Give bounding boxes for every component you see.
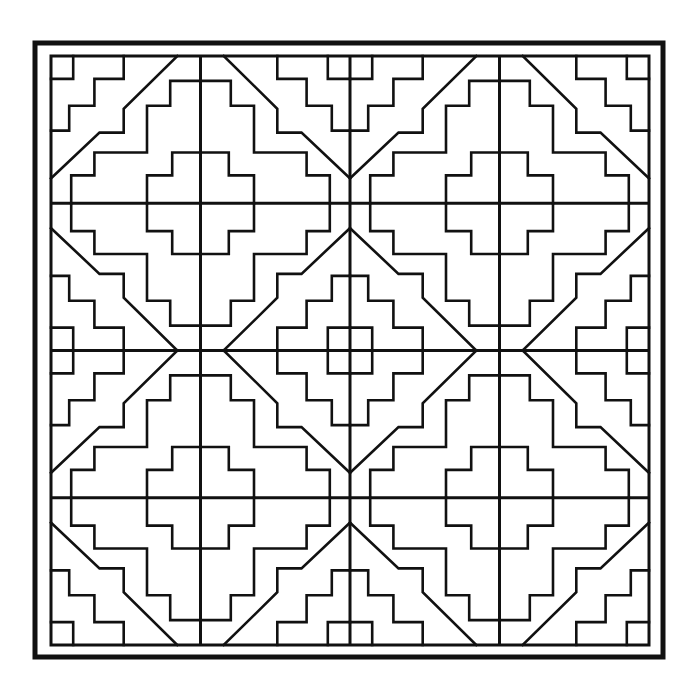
corner-stair (277, 570, 350, 645)
pattern-cell (201, 56, 351, 203)
inner-step-cross (500, 447, 554, 498)
inner-step-cross (201, 498, 255, 549)
corner-stair (350, 351, 423, 426)
inner-step-cross (446, 153, 500, 204)
corner-square (627, 328, 649, 351)
corner-square (350, 622, 372, 645)
inner-step-cross (500, 498, 554, 549)
pattern-cell (51, 203, 201, 350)
inner-step-cross (201, 153, 255, 204)
corner-square (627, 622, 649, 645)
corner-stair (350, 570, 423, 645)
corner-square (350, 351, 372, 374)
corner-square (328, 56, 350, 79)
corner-square (328, 351, 350, 374)
inner-step-cross (446, 203, 500, 254)
inner-step-cross (147, 447, 201, 498)
pattern-cell (51, 351, 201, 498)
inner-step-cross (147, 153, 201, 204)
corner-square (627, 56, 649, 79)
tile-grid-lines (51, 56, 649, 645)
corner-square (350, 56, 372, 79)
corner-square (328, 622, 350, 645)
pattern-cell (201, 498, 351, 645)
corner-stair (51, 351, 124, 426)
corner-stair (277, 276, 350, 351)
corner-stair (576, 56, 649, 131)
corner-stair (277, 351, 350, 426)
inner-step-cross (500, 203, 554, 254)
pattern-cell (500, 56, 650, 203)
corner-square (51, 56, 73, 79)
corner-square (51, 622, 73, 645)
pattern-cell (51, 56, 201, 203)
pattern-cell (350, 498, 500, 645)
inner-step-cross (500, 153, 554, 204)
pattern-cell (51, 498, 201, 645)
corner-square (328, 328, 350, 351)
corner-stair (350, 276, 423, 351)
pattern-cell (350, 56, 500, 203)
inner-step-cross (201, 447, 255, 498)
inner-step-cross (147, 203, 201, 254)
corner-square (51, 351, 73, 374)
pattern-cell (500, 498, 650, 645)
corner-stair (576, 276, 649, 351)
inner-step-cross (446, 498, 500, 549)
corner-stair (51, 56, 124, 131)
geometric-pattern-artwork (0, 0, 700, 689)
corner-stair (576, 570, 649, 645)
corner-stair (277, 56, 350, 131)
corner-stair (350, 56, 423, 131)
pattern-cell (201, 351, 351, 498)
corner-stair (51, 570, 124, 645)
inner-step-cross (201, 203, 255, 254)
corner-square (627, 351, 649, 374)
pattern-cell (350, 203, 500, 350)
inner-step-cross (446, 447, 500, 498)
corner-stair (576, 351, 649, 426)
inner-step-cross (147, 498, 201, 549)
pattern-cell (350, 351, 500, 498)
pattern-cell (201, 203, 351, 350)
corner-square (51, 328, 73, 351)
corner-square (350, 328, 372, 351)
pattern-cell (500, 203, 650, 350)
corner-stair (51, 276, 124, 351)
pattern-cell (500, 351, 650, 498)
